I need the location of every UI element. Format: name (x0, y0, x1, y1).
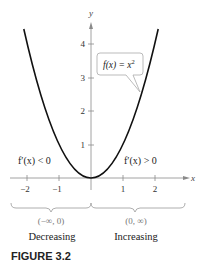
svg-text:f(x) = x2: f(x) = x2 (103, 58, 135, 71)
function-label: f(x) = x (103, 60, 132, 71)
x-axis-label: x (190, 173, 195, 183)
function-callout: f(x) = x2 (97, 53, 143, 92)
svg-text:4: 4 (81, 39, 86, 49)
left-derivative-label: f′(x) < 0 (18, 155, 51, 167)
function-exponent: 2 (132, 58, 135, 65)
svg-text:−2: −2 (20, 184, 30, 194)
y-axis-arrow-icon (89, 22, 93, 29)
left-description: Decreasing (28, 231, 76, 242)
svg-text:3: 3 (81, 73, 86, 83)
right-derivative-label: f′(x) > 0 (124, 155, 157, 167)
left-interval: (−∞, 0) (38, 216, 65, 226)
y-tick-labels: 1 2 3 4 (81, 39, 86, 150)
figure-canvas: 1 2 3 4 −2 −1 1 2 y x f(x) = x2 f′(x) < … (0, 0, 207, 267)
right-brace (91, 203, 185, 212)
svg-text:1: 1 (121, 184, 126, 194)
left-brace (11, 203, 91, 212)
x-axis-arrow-icon (183, 176, 190, 180)
right-interval: (0, ∞) (125, 216, 146, 226)
svg-text:2: 2 (81, 106, 86, 116)
x-tick-labels: −2 −1 1 2 (20, 184, 157, 194)
svg-text:1: 1 (81, 140, 86, 150)
svg-text:−1: −1 (52, 184, 62, 194)
right-description: Increasing (114, 231, 158, 242)
svg-text:2: 2 (153, 184, 158, 194)
y-axis-label: y (88, 8, 93, 18)
figure-caption: FIGURE 3.2 (11, 250, 71, 262)
